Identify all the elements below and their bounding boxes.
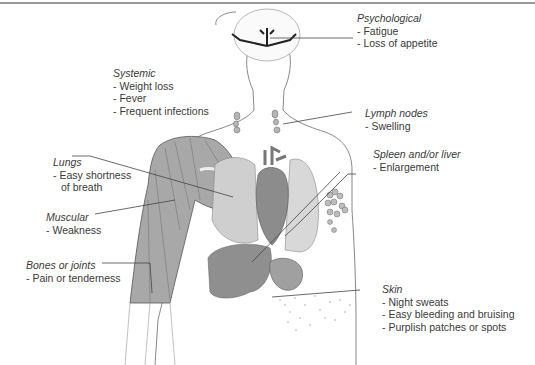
- label-muscular: Muscular - Weakness: [46, 211, 101, 236]
- label-lungs: Lungs - Easy shortness of breath: [53, 156, 131, 194]
- label-systemic: Systemic - Weight loss - Fever - Frequen…: [113, 67, 209, 117]
- neck-lymph-nodes: [234, 110, 281, 133]
- axillary-lymph-cluster: [325, 189, 348, 233]
- skin-spots: [279, 295, 351, 331]
- label-psychological: Psychological - Fatigue - Loss of appeti…: [357, 12, 438, 50]
- label-lymph-nodes: Lymph nodes - Swelling: [365, 107, 428, 132]
- label-bones-joints: Bones or joints - Pain or tenderness: [26, 259, 121, 284]
- liver-spleen: [208, 244, 303, 298]
- heart: [256, 148, 288, 245]
- label-skin: Skin - Night sweats - Easy bleeding and …: [382, 283, 515, 333]
- label-spleen-liver: Spleen and/or liver - Enlargement: [373, 148, 461, 173]
